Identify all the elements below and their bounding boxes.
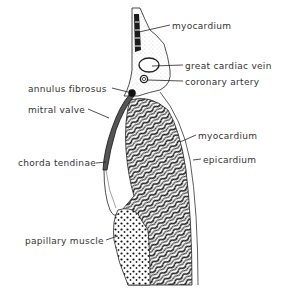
- atrioventricular-groove-region: [124, 8, 170, 96]
- label-epicardium: epicardium: [203, 155, 256, 165]
- coronary-artery-shape: [140, 75, 147, 82]
- label-annulus-fibrosus: annulus fibrosus: [28, 84, 107, 94]
- label-mitral-valve: mitral valve: [28, 105, 85, 115]
- label-myocardium-top: myocardium: [172, 21, 231, 31]
- great-cardiac-vein-shape: [139, 58, 159, 72]
- heart-wall-diagram: [0, 0, 289, 296]
- label-papillary-muscle: papillary muscle: [25, 236, 104, 246]
- label-coronary-artery: coronary artery: [185, 77, 259, 87]
- label-great-cardiac-vein: great cardiac vein: [185, 61, 272, 71]
- label-chordae-tendineae: chorda tendinae: [18, 158, 96, 168]
- annulus-fibrosus-shape: [128, 89, 136, 97]
- label-myocardium-mid: myocardium: [198, 131, 257, 141]
- chordae-tendineae-line: [104, 170, 118, 215]
